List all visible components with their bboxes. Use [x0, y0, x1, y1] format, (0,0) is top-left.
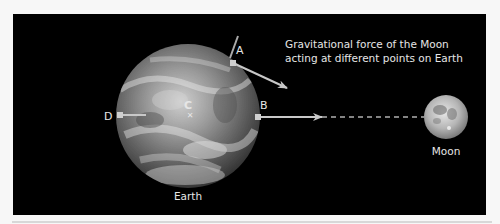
point-b-label: B — [260, 99, 268, 112]
caption-line-1: Gravitational force of the Moon — [285, 38, 449, 50]
point-d-marker — [117, 112, 123, 118]
tidal-force-diagram: ✕ A B C D Gravitational force of the Moo… — [0, 0, 500, 224]
moon-label: Moon — [432, 145, 461, 157]
moon-globe — [424, 95, 468, 139]
caption-line-2: acting at different points on Earth — [285, 52, 463, 64]
point-d-label: D — [104, 110, 112, 123]
earth-label: Earth — [174, 190, 202, 202]
point-b-marker — [255, 114, 261, 120]
point-c-label: C — [184, 99, 192, 112]
point-a-label: A — [236, 44, 244, 57]
point-c-cross-icon: ✕ — [187, 111, 194, 120]
point-a-marker — [230, 60, 236, 66]
